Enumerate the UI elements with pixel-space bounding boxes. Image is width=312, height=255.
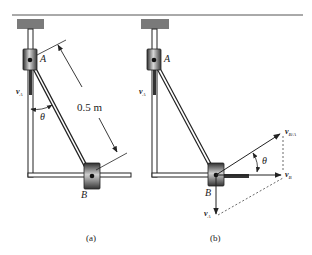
angle-label: θ [40,111,45,122]
rod-shade [153,70,156,95]
angle-label: θ [262,155,267,166]
rod-shade [29,70,32,95]
point-b-label: B [81,189,87,200]
ceiling-support [141,19,169,29]
velocity-ba-arrow [216,134,280,175]
velocity-a-label: vA [139,87,147,97]
panel-a: 0.5 m θ A B vA (a) [16,19,131,243]
panel-b: θ A B vA vA vB vB/A (b) [139,19,297,243]
velocity-ba-label: vB/A [285,127,297,137]
velocity-a-label: vA [16,87,24,97]
mechanism-figure: 0.5 m θ A B vA (a) [0,0,312,255]
pivot-b [90,174,95,179]
caption-b: (b) [210,233,221,243]
pivot-a [152,58,157,63]
angle-arc [253,153,258,172]
velocity-a-bottom-label: vA [204,209,212,219]
horizontal-guide [152,173,216,177]
point-a-label: A [39,53,47,64]
dim-line-upper [58,45,82,87]
caption-a: (a) [86,233,96,243]
length-label: 0.5 m [77,101,103,113]
dim-line-lower [99,118,117,152]
point-b-label: B [205,187,211,198]
angle-arc [31,105,52,110]
link-ab [154,60,216,176]
ceiling-support [17,19,44,29]
dim-extension-bottom [96,153,127,170]
horizontal-guide [28,173,131,177]
pivot-a [28,58,33,63]
point-a-label: A [163,53,171,64]
dashed-diagonal [218,178,283,215]
velocity-b-label: vB [285,170,292,180]
